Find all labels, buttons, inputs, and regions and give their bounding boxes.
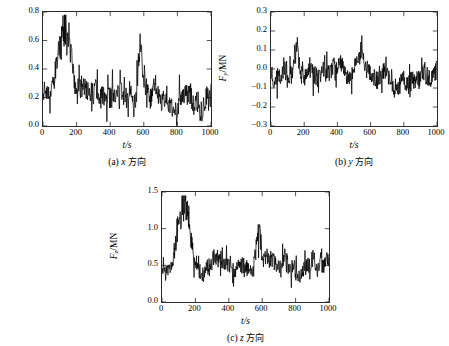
y-axis-label-a: Fx/MN <box>0 33 4 103</box>
x-tick-label: 200 <box>176 303 212 313</box>
y-tick-label: 0.6 <box>6 34 39 44</box>
x-tick-label: 1000 <box>192 127 228 137</box>
y-tick-label: 0.0 <box>6 119 39 129</box>
plot-panel-b: Fy/MN t/s (b) y 方向 02004006008001000−0.3… <box>225 0 449 175</box>
x-tick-label: 600 <box>352 127 388 137</box>
plot-svg-b <box>271 12 437 126</box>
y-tick-label: −0.3 <box>234 119 267 129</box>
x-tick-label: 800 <box>385 127 421 137</box>
x-tick-label: 600 <box>243 303 279 313</box>
x-tick-label: 600 <box>125 127 161 137</box>
plot-svg-c <box>162 192 329 302</box>
panel-caption-b: (b) y 方向 <box>250 155 449 168</box>
plot-area-b <box>270 11 438 127</box>
x-tick-label: 400 <box>91 127 127 137</box>
y-tick-label: 0.0 <box>125 295 158 305</box>
plot-panel-c: Fz/MN t/s (c) z 方向 020040060080010000.00… <box>112 175 362 346</box>
plot-svg-a <box>43 12 211 126</box>
y-axis-label-b: Fy/MN <box>218 33 232 103</box>
y-tick-label: 0.2 <box>234 24 267 34</box>
y-tick-label: 1.0 <box>125 222 158 232</box>
x-tick-label: 400 <box>318 127 354 137</box>
y-tick-label: 0.3 <box>234 5 267 15</box>
x-tick-label: 200 <box>58 127 94 137</box>
y-tick-label: 0.5 <box>125 258 158 268</box>
y-axis-label-c: Fz/MN <box>109 211 123 281</box>
figure-three-force-timeseries: Fx/MN t/s (a) x 方向 020040060080010000.00… <box>0 0 449 346</box>
data-line-b <box>271 36 437 99</box>
x-tick-label: 400 <box>210 303 246 313</box>
y-tick-label: 0.0 <box>234 62 267 72</box>
y-tick-label: −0.1 <box>234 81 267 91</box>
y-tick-label: 0.2 <box>6 91 39 101</box>
panel-caption-c: (c) z 方向 <box>141 331 350 344</box>
panel-caption-a: (a) x 方向 <box>22 155 232 168</box>
x-tick-label: 800 <box>277 303 313 313</box>
x-tick-label: 200 <box>285 127 321 137</box>
x-axis-label-a: t/s <box>42 140 212 150</box>
x-tick-label: 1000 <box>418 127 449 137</box>
y-tick-label: −0.2 <box>234 100 267 110</box>
y-tick-label: 0.1 <box>234 43 267 53</box>
data-line-a <box>43 15 211 126</box>
data-line-c <box>162 196 329 288</box>
plot-panel-a: Fx/MN t/s (a) x 方向 020040060080010000.00… <box>0 0 225 175</box>
x-axis-label-b: t/s <box>270 140 438 150</box>
x-tick-label: 800 <box>158 127 194 137</box>
plot-area-a <box>42 11 212 127</box>
y-tick-label: 0.4 <box>6 62 39 72</box>
y-tick-label: 0.8 <box>6 5 39 15</box>
plot-area-c <box>161 191 330 303</box>
x-axis-label-c: t/s <box>161 316 330 326</box>
x-tick-label: 1000 <box>310 303 346 313</box>
y-tick-label: 1.5 <box>125 185 158 195</box>
